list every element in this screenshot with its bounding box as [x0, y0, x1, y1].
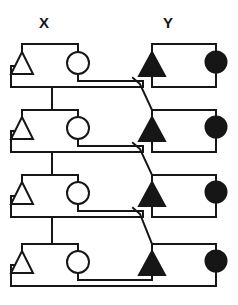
filled-triangle-up-icon [139, 182, 165, 206]
circuit-schematic-canvas: X Y [0, 0, 238, 305]
filled-circle-icon [206, 182, 227, 203]
stage-3-group [11, 175, 216, 217]
column-label-y: Y [163, 14, 173, 31]
filled-circle-icon [206, 52, 227, 73]
open-circle-icon [67, 117, 89, 139]
stage-4-group [11, 244, 216, 286]
filled-circle-icon [206, 117, 227, 138]
open-triangle-up-icon [11, 182, 33, 204]
open-triangle-up-icon [11, 251, 33, 273]
stage-2-group [11, 110, 216, 152]
open-triangle-up-icon [11, 52, 33, 74]
filled-circle-icon [206, 251, 227, 272]
symbol-layer [11, 52, 227, 276]
open-circle-icon [67, 251, 89, 273]
column-label-x: X [39, 14, 49, 31]
filled-triangle-up-icon [139, 251, 165, 275]
filled-triangle-up-icon [139, 117, 165, 141]
open-circle-icon [67, 52, 89, 74]
stage-1-group [11, 44, 216, 87]
filled-triangle-up-icon [139, 52, 165, 76]
wire-layer [11, 44, 216, 286]
open-circle-icon [67, 182, 89, 204]
open-triangle-up-icon [11, 117, 33, 139]
stage-4-left-bottom-wire [11, 265, 216, 286]
circuit-diagram: X Y [0, 0, 238, 305]
